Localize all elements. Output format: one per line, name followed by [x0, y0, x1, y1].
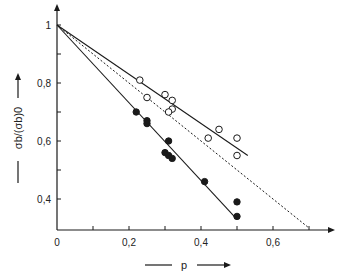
filled-data-point — [234, 199, 240, 205]
y-tick-label: 0,6 — [37, 136, 51, 147]
filled-data-point — [165, 138, 171, 144]
x-tick-label: 0,4 — [194, 237, 208, 248]
arrow-right-icon — [328, 227, 335, 233]
open-data-point — [205, 135, 212, 142]
x-axis-label-text: p — [181, 259, 187, 271]
filled-data-point — [234, 213, 240, 219]
theory-line — [57, 25, 309, 228]
x-axis-label: p — [145, 259, 231, 271]
filled-data-point — [133, 109, 139, 115]
filled-data-point — [201, 178, 207, 184]
open-data-point — [165, 109, 172, 116]
fit-open-line — [57, 25, 248, 156]
y-axis-label-text: σb/(σb)0 — [12, 107, 24, 149]
open-data-point — [234, 152, 241, 159]
arrow-right-icon — [224, 262, 231, 268]
y-axis-label: σb/(σb)0 — [12, 73, 24, 183]
x-tick-label: 0,2 — [122, 237, 136, 248]
arrow-up-icon — [15, 73, 21, 80]
open-data-point — [144, 94, 151, 101]
y-tick-label: 0,8 — [37, 78, 51, 89]
open-data-point — [234, 135, 241, 142]
tick-labels: 00,20,40,610,80,60,4 — [37, 20, 280, 248]
y-tick-label: 1 — [45, 20, 51, 31]
filled-data-point — [169, 155, 175, 161]
x-tick-label: 0 — [54, 237, 60, 248]
data-points — [133, 77, 240, 220]
arrow-up-icon — [54, 4, 60, 11]
open-data-point — [137, 77, 144, 84]
x-tick-label: 0,6 — [266, 237, 280, 248]
fit-lines — [57, 25, 309, 228]
filled-data-point — [144, 118, 150, 124]
open-data-point — [216, 126, 223, 133]
open-data-point — [169, 97, 176, 104]
y-tick-label: 0,4 — [37, 194, 51, 205]
open-data-point — [162, 91, 169, 98]
chart: 00,20,40,610,80,60,4 p σb/(σb)0 — [0, 0, 341, 276]
